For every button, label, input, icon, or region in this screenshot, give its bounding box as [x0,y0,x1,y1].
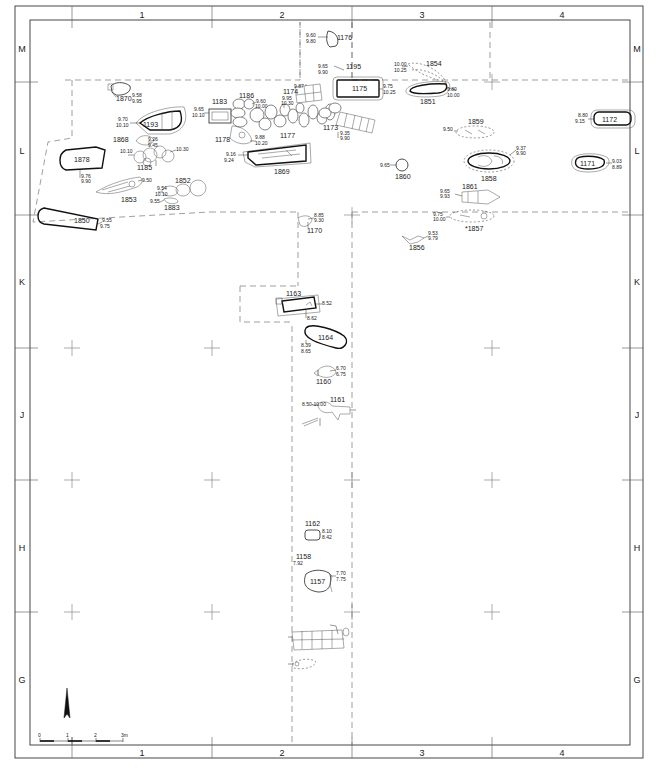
elevation-label: 10.25 [383,89,396,95]
column-label: 2 [279,10,284,20]
elevation-label: 10.10 [192,112,205,118]
column-label: 4 [559,10,564,20]
feature-1185: 1178 9.88 10.20 [215,126,268,146]
feature-1856: 1171 9.03 8.89 [572,154,622,172]
feature-label: 1158 [296,553,311,560]
feature-label: 1160 [316,378,331,385]
row-label: K [19,277,25,287]
feature-label: 1171 [580,160,595,167]
scale-tick-label: 2 [94,732,97,738]
elevation-label: 9.90 [318,69,328,75]
elevation-label: 6.75 [336,371,346,377]
elevation-label: 9.75 [100,223,110,229]
feature-1183: 1183 9.65 10.10 [192,98,231,123]
feature-1859: 9.65 1860 [380,159,411,180]
feature-label: 1878 [74,156,90,163]
feature-1158 [288,625,349,650]
excavation-plan: 1 2 3 4 1 2 3 4 M L K J H G M L K J H G [0,0,658,770]
feature-label: 1195 [346,63,361,70]
feature-1858: 9.65 9.93 1861 [440,183,500,204]
scale-tick-label: 3m [121,732,128,738]
row-label: M [633,44,641,54]
feature-label: 1173 [323,124,338,131]
elevation-label: 9.87 [294,83,304,89]
elevation-label: 9.65 [380,162,390,168]
elevation-label: 10.25 [394,67,407,73]
elevation-label: 7.92 [293,560,303,566]
row-label: K [634,277,640,287]
feature-label: 1177 [280,132,295,139]
feature-label: 1178 [215,136,230,143]
row-label: G [633,675,640,685]
scale-tick-label: 0 [38,732,41,738]
elevation-label: 10.20 [255,140,268,146]
feature-1850: 9.50 1859 [443,118,494,138]
feature-1175: 1175 9.75 10.25 [333,77,396,100]
feature-label: 1852 [175,177,191,184]
feature-1854: 10.00 10.25 1854 [394,60,446,84]
elevation-label: 10.10 [120,148,133,154]
elevation-label: 8.65 [301,348,311,354]
feature-1178: 9.16 9.24 1869 [224,143,311,175]
feature-1855: 9.37 9.90 1858 [464,145,526,182]
scale-tick-label: 1 [66,732,69,738]
feature-label: 1157 [310,578,325,585]
feature-1162: 1157 7.70 7.75 [305,570,346,592]
feature-label: 1869 [274,168,290,175]
elevation-label: 9.55 [150,198,160,204]
elevation-label: 10.00 [433,216,446,222]
feature-label: 1858 [481,175,497,182]
feature-1873: 1878 9.76 9.90 [60,147,105,184]
feature-label: *1857 [465,225,483,232]
feature-label: 1856 [409,244,425,251]
row-labels-left: M L K J H G [18,44,26,685]
feature-1163: 6.70 6.75 1160 [314,365,346,385]
elevation-label: 9.50 [443,126,453,132]
row-labels-right: M L K J H G [633,44,641,685]
feature-1869: 10.10 10.30 1185 [120,146,189,171]
elevation-label: 8.42 [322,534,332,540]
feature-label: 1859 [468,118,484,125]
feature-1160: 1162 8.10 8.42 [305,520,332,540]
elevation-label: 9.24 [224,157,234,163]
column-label: 1 [139,748,144,758]
feature-1851: 9.80 10.00 1851 [406,81,460,105]
feature-label: 1860 [395,173,411,180]
elevation-label: 9.90 [81,178,91,184]
feature-label: 1170 [307,227,322,234]
row-label: L [19,146,24,156]
elevation-label: 8.62 [307,315,317,321]
column-label: 3 [419,748,424,758]
elevation-label: 8.89 [612,164,622,170]
feature-1878: 9.50 1853 [96,177,152,203]
feature-1853: 9.55 1883 [150,198,180,211]
elevation-label: 8.52 [322,300,332,306]
feature-label: 1883 [164,204,180,211]
elevation-label: 8.50-10.00 [302,401,326,407]
row-label: J [20,410,25,420]
feature-label: 1870 [116,95,132,102]
feature-1193: 1193 9.70 10.10 [116,107,186,134]
elevation-label: 9.30 [314,217,324,223]
row-label: H [634,543,641,553]
feature-label: 1172 [602,116,617,123]
elevation-label: 9.95 [132,98,142,104]
feature-label: 1186 [239,92,254,99]
feature-1195: 9.65 9.90 1195 [318,63,361,75]
feature-1161: 1158 7.92 [293,553,311,566]
column-label: 4 [559,748,564,758]
feature-1176: 9.60 9.80 1176 [306,31,352,47]
feature-1164: 8.50-10.00 1161 [302,396,356,426]
row-label: M [18,44,26,54]
feature-label: 1868 [113,136,129,143]
feature-1172: 8.85 9.30 1170 [298,212,324,234]
elevation-label: 10.30 [281,100,294,106]
feature-label: 1175 [352,85,367,92]
row-label: L [634,146,639,156]
feature-label: 1174 [283,88,298,95]
scale-bar: 0 1 2 3m [38,732,128,742]
feature-label: 1183 [212,98,227,105]
feature-1852: 1852 9.54 10.10 [155,177,206,197]
north-arrow-icon [64,688,70,718]
feature-label: 1162 [305,520,320,527]
